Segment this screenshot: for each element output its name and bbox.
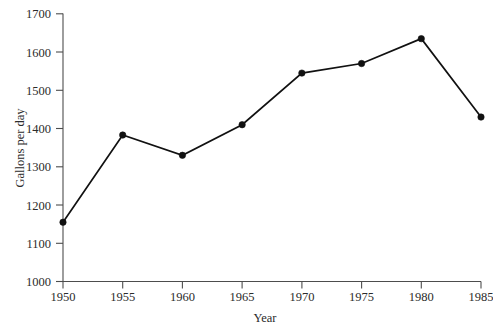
- x-tick-label-1955: 1955: [110, 290, 135, 304]
- x-tick-label-1960: 1960: [170, 290, 195, 304]
- data-point-1950: [60, 219, 66, 225]
- x-tick-label-1980: 1980: [409, 290, 434, 304]
- x-tick-label-1975: 1975: [349, 290, 374, 304]
- data-point-1980: [418, 35, 424, 41]
- x-tick-label-1985: 1985: [469, 290, 493, 304]
- data-point-1970: [299, 70, 305, 76]
- x-tick-label-1950: 1950: [51, 290, 76, 304]
- y-tick-label-1000: 1000: [26, 275, 51, 289]
- y-tick-label-1500: 1500: [26, 84, 51, 98]
- y-tick-label-1700: 1700: [26, 7, 51, 21]
- y-tick-label-1100: 1100: [26, 237, 51, 251]
- chart-background: [0, 0, 493, 332]
- x-tick-label-1970: 1970: [289, 290, 314, 304]
- x-tick-label-1965: 1965: [230, 290, 255, 304]
- y-tick-label-1600: 1600: [26, 46, 51, 60]
- data-point-1960: [179, 152, 185, 158]
- y-tick-label-1400: 1400: [26, 122, 51, 136]
- data-point-1965: [239, 122, 245, 128]
- y-axis-title: Gallons per day: [13, 108, 27, 188]
- line-chart-figure: 1000 1100 1200 1300 1400 1500 1600 1700 …: [0, 0, 493, 332]
- y-tick-label-1200: 1200: [26, 199, 51, 213]
- chart-canvas: 1000 1100 1200 1300 1400 1500 1600 1700 …: [0, 0, 493, 332]
- data-point-1985: [478, 114, 484, 120]
- y-tick-label-1300: 1300: [26, 160, 51, 174]
- x-axis-title: Year: [253, 311, 277, 325]
- data-point-1955: [120, 132, 126, 138]
- data-point-1975: [358, 60, 364, 66]
